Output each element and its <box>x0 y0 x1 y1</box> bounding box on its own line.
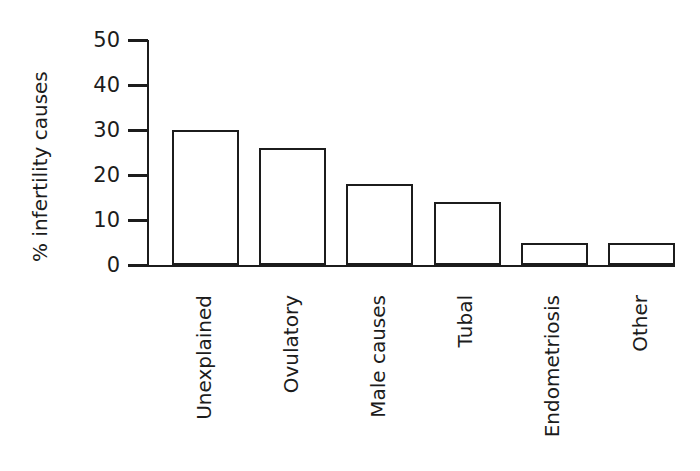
y-tick-label: 30 <box>52 117 120 143</box>
x-label-male-causes: Male causes <box>366 295 390 418</box>
plot-area <box>147 40 675 267</box>
y-tick-mark <box>128 219 148 222</box>
y-tick-mark <box>128 129 148 132</box>
bar-endometriosis <box>521 243 588 266</box>
y-tick-label: 50 <box>52 27 120 53</box>
y-tick-mark <box>128 84 148 87</box>
x-label-other: Other <box>628 295 652 352</box>
x-label-ovulatory: Ovulatory <box>279 295 303 393</box>
bar-other <box>608 243 675 266</box>
y-tick-mark <box>128 39 148 42</box>
x-label-tubal: Tubal <box>453 295 477 347</box>
y-tick-mark <box>128 264 148 267</box>
bar-tubal <box>434 202 501 265</box>
x-label-endometriosis: Endometriosis <box>540 295 564 437</box>
bar-ovulatory <box>259 148 326 265</box>
y-axis-title: % infertility causes <box>27 71 53 262</box>
bar-male-causes <box>346 184 413 265</box>
y-tick-label: 10 <box>52 207 120 233</box>
y-tick-mark <box>128 174 148 177</box>
x-label-unexplained: Unexplained <box>192 295 216 420</box>
y-tick-label: 20 <box>52 162 120 188</box>
y-tick-label: 40 <box>52 72 120 98</box>
bar-chart-figure: % infertility causes 01020304050 Unexpla… <box>0 0 700 471</box>
y-tick-label: 0 <box>52 252 120 278</box>
bar-unexplained <box>172 130 239 265</box>
